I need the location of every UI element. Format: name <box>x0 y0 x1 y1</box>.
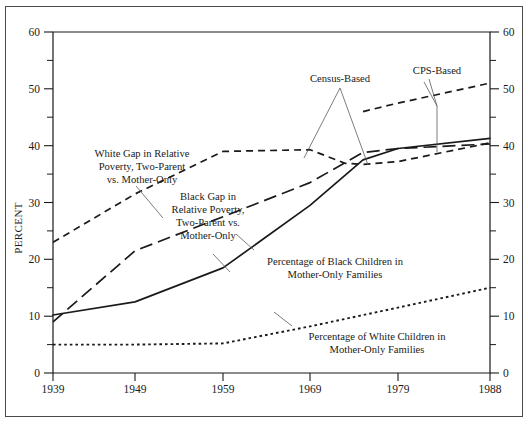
annot-black-children-line2: Mother-Only Families <box>288 269 383 280</box>
annot-black-children-line1: Percentage of Black Children in <box>267 256 404 267</box>
y-tick-label-10: 10 <box>29 310 41 322</box>
y-axis-right-labels: 60 50 40 30 20 10 0 <box>503 26 515 379</box>
x-tick-label-1959: 1959 <box>212 383 235 395</box>
x-axis-ticks <box>53 373 490 381</box>
annot-white-children-line2: Mother-Only Families <box>330 344 425 355</box>
y-axis-left-labels: 60 50 40 30 20 10 0 <box>29 26 41 379</box>
figure-page: 60 50 40 30 20 10 0 <box>0 0 528 427</box>
x-tick-label-1979: 1979 <box>387 383 410 395</box>
annotation-black-children: Percentage of Black Children in Mother-O… <box>267 256 404 280</box>
y-tick-label-40: 40 <box>29 140 41 152</box>
annotation-census-based: Census-Based <box>310 73 371 84</box>
annot-white-gap-line1: White Gap in Relative <box>94 148 189 159</box>
annotation-white-gap: White Gap in Relative Poverty, Two-Paren… <box>94 148 189 185</box>
y-tick-label-0: 0 <box>34 367 40 379</box>
y-tick-label-20: 20 <box>29 253 41 265</box>
y-tick-right-label-40: 40 <box>503 140 515 152</box>
annotation-cps-based: CPS-Based <box>413 65 462 76</box>
y-tick-label-30: 30 <box>29 197 41 209</box>
y-tick-right-label-20: 20 <box>503 253 515 265</box>
line-chart: 60 50 40 30 20 10 0 <box>0 0 528 427</box>
y-tick-right-label-0: 0 <box>503 367 509 379</box>
annot-white-gap-line3: vs. Mother-Only <box>107 174 178 185</box>
annot-cps-based: CPS-Based <box>413 65 462 76</box>
y-tick-label-50: 50 <box>29 83 41 95</box>
y-axis-left-ticks <box>44 32 53 373</box>
y-tick-right-label-50: 50 <box>503 83 515 95</box>
y-tick-label-60: 60 <box>29 26 41 38</box>
y-tick-right-label-10: 10 <box>503 310 515 322</box>
x-axis-labels: 1939 1949 1959 1969 1979 1988 <box>42 383 502 395</box>
x-tick-label-1939: 1939 <box>42 383 65 395</box>
x-tick-label-1988: 1988 <box>479 383 502 395</box>
y-tick-right-label-30: 30 <box>503 197 515 209</box>
annot-white-gap-line2: Poverty, Two-Parent <box>99 161 186 172</box>
x-tick-label-1969: 1969 <box>299 383 322 395</box>
chart-figure: 60 50 40 30 20 10 0 <box>0 0 528 427</box>
y-axis-right-ticks <box>490 32 499 373</box>
x-tick-label-1949: 1949 <box>124 383 147 395</box>
y-axis-title-group: PERCENT <box>12 202 24 254</box>
y-axis-title: PERCENT <box>12 202 24 254</box>
annot-census-based: Census-Based <box>310 73 371 84</box>
annot-black-gap-line1: Black Gap in <box>180 191 237 202</box>
annot-black-gap-line2: Relative Poverty, <box>172 204 245 215</box>
annotation-leaders <box>136 79 437 326</box>
annotation-white-children: Percentage of White Children in Mother-O… <box>309 331 447 355</box>
annot-black-gap-line3: Two-Parent vs. <box>176 217 240 228</box>
annotation-black-gap: Black Gap in Relative Poverty, Two-Paren… <box>172 191 245 241</box>
y-tick-right-label-60: 60 <box>503 26 515 38</box>
annot-black-gap-line4: Mother-Only <box>180 230 236 241</box>
annot-white-children-line1: Percentage of White Children in <box>309 331 447 342</box>
